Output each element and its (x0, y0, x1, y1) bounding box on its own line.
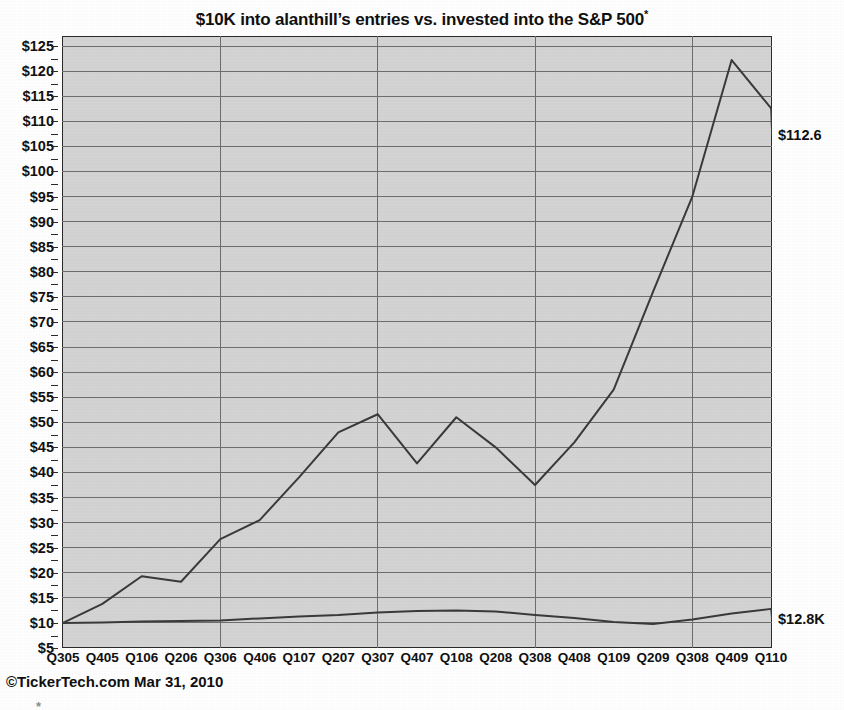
y-tick-label: $115 (23, 89, 54, 104)
y-tick-mark (51, 397, 58, 398)
y-tick-mark (51, 510, 58, 511)
y-tick-mark (51, 610, 58, 611)
y-tick-mark (51, 197, 58, 198)
y-tick-mark (51, 410, 58, 411)
y-tick-mark (51, 96, 58, 97)
y-tick-mark (51, 272, 58, 273)
y-tick-mark (51, 523, 58, 524)
plot-area (62, 36, 772, 648)
y-tick-mark (51, 548, 58, 549)
chart-container: $10K into alanthill’s entries vs. invest… (0, 0, 844, 710)
y-tick-mark (51, 121, 58, 122)
y-tick-mark (51, 59, 58, 60)
x-tick-label: Q308 (518, 651, 551, 665)
chart-title: $10K into alanthill’s entries vs. invest… (0, 8, 844, 30)
x-axis: Q305Q405Q106Q206Q306Q406Q107Q207Q307Q407… (62, 651, 772, 673)
y-tick-mark (51, 535, 58, 536)
y-tick-mark (51, 422, 58, 423)
chart-title-text: $10K into alanthill’s entries vs. invest… (196, 10, 644, 29)
y-tick-mark (51, 347, 58, 348)
x-tick-label: Q206 (164, 651, 197, 665)
y-tick-mark (51, 222, 58, 223)
y-tick-mark (51, 209, 58, 210)
y-tick-mark (51, 435, 58, 436)
y-axis: $5$10$15$20$25$30$35$40$45$50$55$60$65$7… (0, 36, 58, 648)
x-tick-label: Q306 (204, 651, 237, 665)
y-tick-mark (51, 560, 58, 561)
y-tick-mark (51, 184, 58, 185)
plot-svg (62, 36, 772, 648)
y-tick-mark (51, 134, 58, 135)
x-tick-label: Q305 (46, 651, 79, 665)
x-tick-label: Q207 (322, 651, 355, 665)
y-tick-mark (51, 636, 58, 637)
y-tick-mark (51, 585, 58, 586)
y-tick-label: $105 (22, 139, 54, 154)
x-tick-label: Q406 (243, 651, 276, 665)
x-tick-label: Q108 (440, 651, 473, 665)
benchmark-end-label: $12.8K (778, 612, 825, 627)
y-tick-mark (51, 623, 58, 624)
x-tick-label: Q308 (676, 651, 709, 665)
x-tick-label: Q409 (715, 651, 748, 665)
y-tick-mark (51, 284, 58, 285)
y-tick-label: $110 (23, 114, 54, 129)
y-tick-mark (51, 309, 58, 310)
y-tick-mark (51, 335, 58, 336)
y-tick-mark (51, 447, 58, 448)
y-tick-mark (51, 360, 58, 361)
y-tick-mark (51, 171, 58, 172)
y-tick-mark (51, 46, 58, 47)
y-tick-mark (51, 146, 58, 147)
y-tick-mark (51, 573, 58, 574)
y-tick-mark (51, 648, 58, 649)
y-tick-mark (51, 498, 58, 499)
y-tick-mark (51, 109, 58, 110)
y-tick-mark (51, 71, 58, 72)
footer-footnote-marker: * (36, 700, 41, 710)
x-tick-label: Q405 (86, 651, 119, 665)
y-tick-label: $120 (22, 64, 54, 79)
y-tick-mark (51, 322, 58, 323)
y-tick-mark (51, 247, 58, 248)
y-tick-mark (51, 472, 58, 473)
x-tick-label: Q107 (282, 651, 315, 665)
portfolio-end-label: $112.6 (778, 128, 822, 143)
y-tick-mark (51, 385, 58, 386)
title-footnote-marker: * (644, 8, 648, 20)
x-tick-label: Q109 (597, 651, 630, 665)
y-tick-mark (51, 372, 58, 373)
x-tick-label: Q106 (125, 651, 158, 665)
x-tick-label: Q110 (755, 651, 787, 665)
x-tick-label: Q209 (636, 651, 669, 665)
x-tick-label: Q407 (400, 651, 433, 665)
y-tick-label: $125 (22, 39, 54, 54)
y-tick-mark (51, 485, 58, 486)
x-tick-label: Q408 (558, 651, 591, 665)
y-tick-mark (51, 460, 58, 461)
y-tick-mark (51, 234, 58, 235)
x-tick-label: Q307 (361, 651, 394, 665)
y-tick-mark (51, 259, 58, 260)
x-tick-label: Q208 (479, 651, 512, 665)
y-tick-mark (51, 297, 58, 298)
y-tick-label: $100 (22, 164, 54, 179)
y-tick-mark (51, 84, 58, 85)
footer-credit: ©TickerTech.com Mar 31, 2010 (6, 674, 223, 689)
y-tick-mark (51, 598, 58, 599)
y-tick-mark (51, 159, 58, 160)
